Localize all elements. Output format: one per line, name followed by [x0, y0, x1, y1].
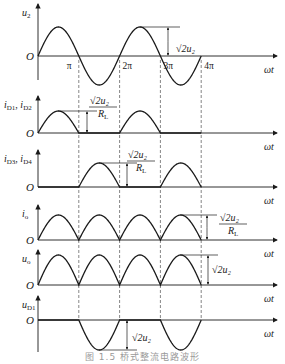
amplitude-value: √2u₂: [212, 264, 231, 275]
y-axis-label: iD3, iD4: [4, 153, 32, 166]
panel-uD1: OωtuD1√2u₂: [22, 296, 277, 352]
rectifier-waveform-diagram: Oωtu2√2u₂OωtiD1, iD2√2u₂RLOωtiD3, iD4√2u…: [0, 0, 285, 364]
tick-label-3pi: 3π: [163, 61, 173, 71]
x-axis-label: ωt: [264, 195, 274, 206]
amplitude-label: √2u₂: [212, 264, 231, 275]
origin-label: O: [26, 234, 34, 246]
figure-caption: 图 1.5 桥式整流电路波形: [0, 350, 285, 363]
panel-uo: Oωtuo√2u₂: [22, 250, 277, 304]
waveform-uD1: [38, 320, 201, 350]
y-axis-label: u2: [22, 7, 31, 20]
panel-u2: Oωtu2√2u₂: [22, 4, 277, 85]
y-axis-label: uo: [22, 253, 31, 266]
amplitude-label: √2u₂: [176, 43, 195, 54]
amplitude-label: √2u₂RL: [89, 95, 117, 121]
amplitude-numerator: √2u₂: [128, 149, 147, 160]
amplitude-numerator: √2u₂: [220, 212, 239, 223]
amplitude-label: √2u₂: [132, 332, 151, 343]
x-axis-label: ωt: [264, 141, 274, 152]
origin-label: O: [26, 50, 34, 62]
amplitude-numerator: √2u₂: [90, 95, 109, 106]
amplitude-label: √2u₂RL: [127, 149, 155, 175]
amplitude-label: √2u₂RL: [219, 212, 247, 238]
tick-label-1pi: π: [67, 61, 72, 71]
x-axis-label: ωt: [264, 328, 274, 339]
panel-io: Oωtio√2u₂RL: [22, 205, 277, 259]
panel-iD34: OωtiD3, iD4√2u₂RL: [4, 149, 277, 206]
origin-label: O: [26, 181, 34, 193]
panel-iD12: OωtiD1, iD2√2u₂RL: [4, 95, 277, 152]
amplitude-denominator: RL: [227, 225, 238, 238]
y-axis-label: iD1, iD2: [4, 99, 32, 112]
x-tick-labels: π2π3π4π: [67, 61, 214, 71]
x-axis-label: ωt: [264, 293, 274, 304]
y-axis-label: uD1: [22, 299, 36, 312]
origin-label: O: [26, 127, 34, 139]
tick-label-2pi: 2π: [123, 61, 133, 71]
y-axis-label: io: [22, 208, 29, 221]
x-axis-label: ωt: [264, 64, 274, 75]
amplitude-value: √2u₂: [176, 43, 195, 54]
amplitude-denominator: RL: [97, 108, 108, 121]
amplitude-value: √2u₂: [132, 332, 151, 343]
origin-label: O: [26, 279, 34, 291]
origin-label: O: [26, 314, 34, 326]
amplitude-denominator: RL: [135, 162, 146, 175]
tick-label-4pi: 4π: [204, 61, 214, 71]
x-axis-label: ωt: [264, 248, 274, 259]
